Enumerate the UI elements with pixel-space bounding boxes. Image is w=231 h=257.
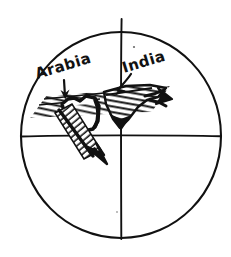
figure-canvas: Arabia India (0, 0, 231, 257)
globe-diagram: Arabia India (0, 0, 231, 257)
ink-speck-lower (116, 211, 118, 213)
ink-speck (133, 46, 135, 48)
